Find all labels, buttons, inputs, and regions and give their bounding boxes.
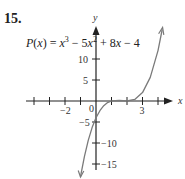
y-axis-arrow-icon xyxy=(93,26,100,35)
polynomial-graph: x −2 0 3 y 10 5 −5 −10 −15 xyxy=(0,0,185,179)
y-axis-label: y xyxy=(92,12,98,23)
x-tick-label-0: 0 xyxy=(89,103,94,114)
y-tick-label-neg10: −10 xyxy=(101,138,117,149)
y-tick-label-5: 5 xyxy=(83,75,88,86)
x-tick-label-neg2: −2 xyxy=(60,105,71,116)
x-axis-arrow-icon xyxy=(164,98,173,105)
x-tick-label-3: 3 xyxy=(140,105,145,116)
y-tick-label-10: 10 xyxy=(78,54,88,65)
y-axis: y 10 5 −5 −10 −15 xyxy=(78,12,117,170)
x-axis-label: x xyxy=(177,95,183,106)
y-tick-label-neg5: −5 xyxy=(79,117,90,128)
y-tick-label-neg15: −15 xyxy=(101,159,117,170)
